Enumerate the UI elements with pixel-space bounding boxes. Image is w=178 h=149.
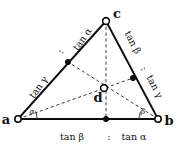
vertex-label-c: c xyxy=(113,6,121,21)
cevian-foot-on-side-ac xyxy=(65,59,70,64)
vertex-label-a: a xyxy=(2,112,11,127)
ratio-label-bc-upper: tan β xyxy=(123,29,144,56)
vertex-marker-c xyxy=(103,18,110,25)
vertex-marker-a xyxy=(15,116,21,122)
ratio-label-ab-left: tan β xyxy=(60,131,85,142)
triangle-diagram-canvas: a b c d α β tan α : tan γ tan β : tan γ … xyxy=(0,0,178,149)
ratio-separator-bc: : xyxy=(138,64,149,72)
cevian-foot-on-side-bc xyxy=(130,75,135,80)
geometry-figure: a b c d α β tan α : tan γ tan β : tan γ … xyxy=(0,0,178,149)
ratio-labels-side-ab: tan β : tan α xyxy=(60,131,147,142)
angle-label-beta-at-b: β xyxy=(140,107,146,116)
ratio-label-ab-right: tan α xyxy=(121,131,147,142)
cevian-foot-on-side-ab xyxy=(103,116,108,121)
ratio-label-bc-lower: tan γ xyxy=(145,73,166,100)
interior-point-label-d: d xyxy=(93,90,102,105)
ratio-separator-ab: : xyxy=(107,131,110,142)
vertex-label-b: b xyxy=(164,113,173,128)
ratio-separator-ac: : xyxy=(55,46,66,55)
ratio-labels-side-ac: tan α : tan γ xyxy=(27,25,94,100)
vertex-marker-b xyxy=(155,116,161,122)
angle-arcs xyxy=(36,111,141,119)
angle-label-alpha-at-a: α xyxy=(29,107,34,116)
